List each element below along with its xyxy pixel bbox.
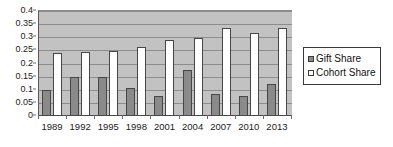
- x-tick-label: 1989: [41, 122, 62, 132]
- bar-group: [95, 11, 123, 116]
- bar-cohort-share: [81, 52, 90, 116]
- bar-group: [39, 11, 67, 116]
- bar-cohort-share: [222, 28, 231, 116]
- legend-swatch-cohort-share-icon: [308, 70, 314, 76]
- y-tick-label: 0.3: [20, 32, 33, 41]
- bar-gift-share: [239, 96, 248, 116]
- bar-cohort-share: [53, 53, 62, 116]
- bar-group: [236, 11, 264, 116]
- y-tick-mark: [33, 88, 36, 89]
- bar-cohort-share: [278, 28, 287, 116]
- bar-group: [208, 11, 236, 116]
- x-tick-mark: [122, 115, 123, 119]
- x-tick-label: 2004: [182, 122, 203, 132]
- y-tick-mark: [33, 23, 36, 24]
- y-tick-mark: [33, 49, 36, 50]
- y-tick-mark: [33, 115, 36, 116]
- bar-group: [67, 11, 95, 116]
- y-tick-label: 0.4: [20, 6, 33, 15]
- x-tick-mark: [179, 115, 180, 119]
- legend-label-gift-share: Gift Share: [316, 54, 361, 64]
- bar-chart: 00.050.10.150.20.250.30.350.4 1989199219…: [0, 0, 393, 147]
- x-tick-label: 1992: [70, 122, 91, 132]
- x-tick-mark: [94, 115, 95, 119]
- y-axis: 00.050.10.150.20.250.30.350.4: [0, 4, 36, 120]
- legend-label-cohort-share: Cohort Share: [316, 68, 375, 78]
- bar-gift-share: [211, 94, 220, 116]
- x-tick-label: 2010: [238, 122, 259, 132]
- y-tick-label: 0.2: [20, 58, 33, 67]
- bar-gift-share: [154, 96, 163, 116]
- legend-swatch-gift-share-icon: [308, 56, 314, 62]
- x-tick-label: 1995: [98, 122, 119, 132]
- y-tick-mark: [33, 36, 36, 37]
- legend: Gift Share Cohort Share: [303, 47, 381, 85]
- y-tick-mark: [33, 62, 36, 63]
- x-tick-label: 2001: [154, 122, 175, 132]
- bar-cohort-share: [250, 33, 259, 116]
- x-tick-mark: [263, 115, 264, 119]
- x-tick-label: 2013: [266, 122, 287, 132]
- y-tick-label: 0.15: [15, 71, 33, 80]
- bar-cohort-share: [194, 38, 203, 116]
- bar-cohort-share: [165, 40, 174, 116]
- bar-gift-share: [183, 70, 192, 116]
- y-tick-label: 0.05: [15, 97, 33, 106]
- bar-gift-share: [267, 84, 276, 116]
- plot-area: [38, 10, 292, 116]
- bar-gift-share: [70, 77, 79, 116]
- bar-group: [180, 11, 208, 116]
- bar-cohort-share: [109, 51, 118, 116]
- x-tick-mark: [150, 115, 151, 119]
- legend-item-cohort-share: Cohort Share: [308, 66, 375, 80]
- bar-group: [123, 11, 151, 116]
- bar-cohort-share: [137, 47, 146, 116]
- bar-gift-share: [42, 90, 51, 116]
- bars-layer: [39, 11, 292, 116]
- x-tick-label: 1998: [126, 122, 147, 132]
- legend-item-gift-share: Gift Share: [308, 52, 375, 66]
- y-tick-mark: [33, 75, 36, 76]
- bar-gift-share: [98, 77, 107, 116]
- bar-group: [151, 11, 179, 116]
- y-tick-label: 0.35: [15, 19, 33, 28]
- x-tick-mark: [66, 115, 67, 119]
- x-axis: 198919921995199820012004200720102013: [38, 120, 291, 140]
- x-tick-mark: [207, 115, 208, 119]
- x-tick-mark: [235, 115, 236, 119]
- x-tick-label: 2007: [210, 122, 231, 132]
- y-tick-mark: [33, 10, 36, 11]
- bar-group: [264, 11, 292, 116]
- bar-gift-share: [126, 88, 135, 116]
- y-tick-label: 0.25: [15, 45, 33, 54]
- x-axis-line: [38, 115, 292, 116]
- x-tick-mark: [291, 115, 292, 119]
- y-tick-mark: [33, 101, 36, 102]
- y-tick-label: 0.1: [20, 84, 33, 93]
- x-tick-mark: [38, 115, 39, 119]
